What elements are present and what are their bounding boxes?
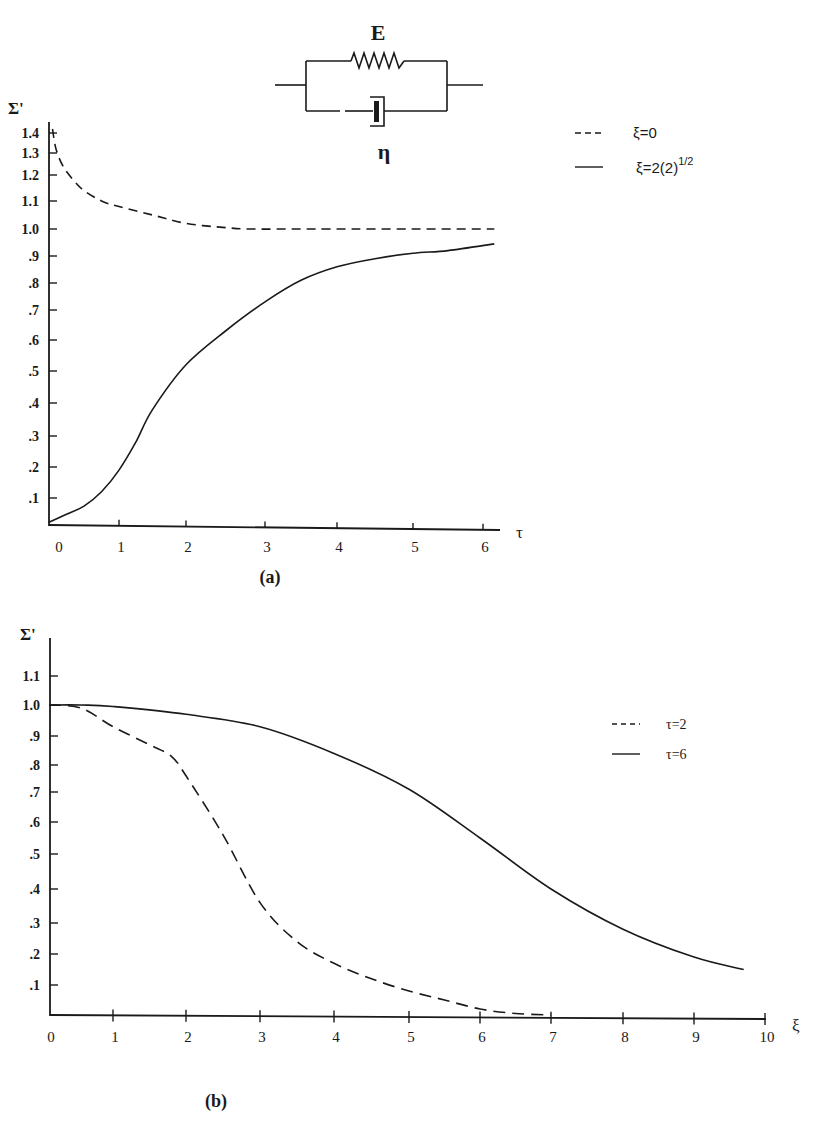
y-tick-label: 1.0 xyxy=(22,222,40,237)
y-tick-label: .4 xyxy=(29,396,40,411)
spring-icon xyxy=(351,53,404,68)
y-tick-label: .6 xyxy=(29,333,40,348)
panel-a-series-xi-2root2 xyxy=(49,244,494,522)
y-tick-label: .6 xyxy=(30,815,41,830)
x-tick-label: 2 xyxy=(184,539,192,555)
panel-a-label: (a) xyxy=(260,567,281,588)
panel-a-x-axis xyxy=(49,525,500,530)
panel-b-x-axis xyxy=(50,1015,766,1019)
x-tick-label: 3 xyxy=(263,539,271,555)
x-tick-label: 5 xyxy=(411,539,419,555)
x-tick-label: 9 xyxy=(692,1029,700,1045)
x-tick-label: 2 xyxy=(184,1029,192,1045)
figure: E η Σ' .1.2.3.4.5.6.7.8.91.01.11.21.31.4… xyxy=(0,0,820,1126)
y-tick-label: .1 xyxy=(30,978,41,993)
y-tick-label: .9 xyxy=(30,729,41,744)
y-tick-label: .3 xyxy=(29,429,40,444)
y-tick-label: .5 xyxy=(29,364,40,379)
y-tick-label: .3 xyxy=(30,916,41,931)
x-tick-label: 8 xyxy=(621,1029,629,1045)
x-tick-label: 5 xyxy=(407,1029,415,1045)
legend-label-xi-2root2: ξ=2(2)1/2 xyxy=(636,155,693,176)
y-tick-label: .4 xyxy=(30,882,41,897)
y-tick-label: 1.3 xyxy=(22,146,40,161)
legend-label-xi-0: ξ=0 xyxy=(633,124,657,141)
panel-b-y-ticks: .1.2.3.4.5.6.7.8.91.01.1 xyxy=(23,669,59,993)
x-tick-label: 0 xyxy=(47,1029,55,1045)
y-tick-label: .5 xyxy=(30,847,41,862)
legend-label-tau-6: τ=6 xyxy=(666,747,687,762)
panel-b-legend: τ=2 τ=6 xyxy=(612,717,687,762)
panel-a-y-ticks: .1.2.3.4.5.6.7.8.91.01.11.21.31.4 xyxy=(22,126,58,506)
panel-b-series-tau-2 xyxy=(49,705,551,1015)
spring-label: E xyxy=(371,20,386,45)
panel-b-y-axis-title: Σ' xyxy=(20,625,36,644)
y-tick-label: .2 xyxy=(29,460,40,475)
dashpot-label: η xyxy=(378,139,391,164)
panel-a-series-xi-0 xyxy=(53,129,495,229)
panel-a-y-axis-title: Σ' xyxy=(8,99,24,118)
y-tick-label: 1.0 xyxy=(23,698,41,713)
x-tick-label: 1 xyxy=(117,539,125,555)
y-tick-label: .2 xyxy=(30,947,41,962)
x-tick-label: 7 xyxy=(549,1029,557,1045)
x-tick-label: 3 xyxy=(258,1029,266,1045)
legend-label-tau-2: τ=2 xyxy=(666,717,687,732)
panel-a-chart: Σ' .1.2.3.4.5.6.7.8.91.01.11.21.31.4 012… xyxy=(8,99,693,588)
y-tick-label: 1.4 xyxy=(22,126,40,141)
panel-b-x-axis-title: ξ xyxy=(792,1016,800,1035)
x-tick-label: 1 xyxy=(111,1029,119,1045)
panel-b-series-tau-6 xyxy=(49,705,744,970)
y-tick-label: .7 xyxy=(29,303,40,318)
x-tick-label: 6 xyxy=(481,539,489,555)
y-tick-label: 1.2 xyxy=(22,168,40,183)
panel-b-label: (b) xyxy=(205,1091,227,1112)
y-tick-label: .1 xyxy=(29,491,40,506)
panel-a-legend: ξ=0 ξ=2(2)1/2 xyxy=(575,124,693,176)
panel-b-chart: Σ' .1.2.3.4.5.6.7.8.91.01.1 012345678910… xyxy=(20,625,800,1112)
y-tick-label: .8 xyxy=(30,758,41,773)
x-tick-label: 0 xyxy=(55,539,63,555)
x-tick-label: 4 xyxy=(332,1029,340,1045)
y-tick-label: .7 xyxy=(30,785,41,800)
y-tick-label: 1.1 xyxy=(22,194,40,209)
x-tick-label: 6 xyxy=(478,1029,486,1045)
kelvin-voigt-circuit-diagram xyxy=(275,53,483,126)
y-tick-label: .8 xyxy=(29,276,40,291)
y-tick-label: .9 xyxy=(29,249,40,264)
panel-a-x-axis-title: τ xyxy=(516,523,523,542)
y-tick-label: 1.1 xyxy=(23,669,41,684)
x-tick-label: 10 xyxy=(760,1029,775,1045)
x-tick-label: 4 xyxy=(335,539,343,555)
